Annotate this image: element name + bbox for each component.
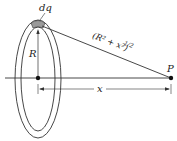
dq-leader-line (40, 13, 45, 20)
distance-line (42, 26, 171, 78)
ring-center-dot (36, 76, 40, 80)
x-arrowhead-left (39, 87, 44, 90)
radius-arrowhead (36, 29, 39, 34)
dq-label: dq (39, 2, 52, 13)
radius-label: R (28, 48, 37, 59)
x-label: x (97, 83, 103, 94)
point-p-dot (169, 76, 173, 80)
ring-charge-diagram: dq R (R² + x²) 1/2 P x (0, 0, 177, 141)
x-arrowhead-right (165, 87, 170, 90)
point-p-label: P (166, 63, 174, 74)
